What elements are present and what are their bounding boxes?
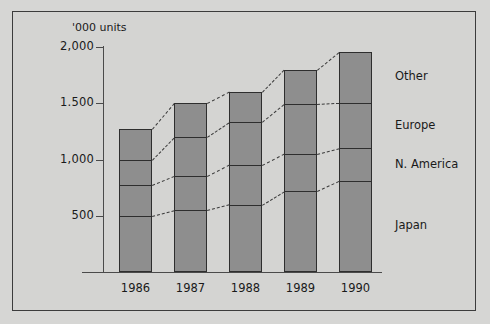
- stacked-bar: [284, 70, 317, 273]
- bar-segment-divider: [229, 205, 262, 206]
- y-tick-mark: [96, 47, 104, 48]
- bar-segment-divider: [119, 185, 152, 186]
- segment-connector-line: [317, 148, 339, 155]
- segment-connector-line: [317, 181, 339, 192]
- segment-connector-line: [152, 137, 175, 160]
- plot-area: '000 units 5001,0001.5002,000 1986198719…: [0, 0, 490, 324]
- legend-label: Europe: [395, 118, 435, 132]
- bar-segment-divider: [339, 181, 372, 182]
- y-tick-mark: [96, 216, 104, 217]
- y-tick-mark: [96, 160, 104, 161]
- segment-connector-line: [207, 165, 229, 177]
- stacked-bar: [174, 103, 207, 272]
- x-axis-label: 1988: [216, 281, 276, 295]
- x-axis-label: 1986: [106, 281, 166, 295]
- y-tick-label: 1.500: [60, 95, 94, 109]
- segment-connector-line: [262, 154, 284, 166]
- segment-connector-line: [262, 104, 285, 123]
- x-axis-label: 1987: [161, 281, 221, 295]
- legend-label: Other: [395, 69, 428, 83]
- y-tick-label: 2,000: [60, 39, 94, 53]
- segment-connector-line: [152, 176, 174, 186]
- bar-segment-divider: [284, 104, 317, 105]
- legend-label: Japan: [395, 218, 427, 232]
- segment-connector-line: [207, 205, 229, 212]
- legend-label: N. America: [395, 157, 458, 171]
- y-axis-units-label: '000 units: [72, 21, 127, 34]
- bar-segment-divider: [119, 216, 152, 217]
- segment-connector-line: [262, 191, 285, 205]
- chart-figure: '000 units 5001,0001.5002,000 1986198719…: [0, 0, 490, 324]
- bar-segment-divider: [284, 154, 317, 155]
- segment-connector-line: [317, 103, 339, 105]
- segment-connector-line: [152, 103, 175, 130]
- bar-segment-divider: [174, 210, 207, 211]
- bar-segment-divider: [174, 137, 207, 138]
- segment-connector-line: [262, 70, 285, 93]
- x-axis-line: [82, 272, 382, 273]
- x-axis-label: 1989: [271, 281, 331, 295]
- bar-segment-divider: [119, 160, 152, 161]
- y-tick-mark: [96, 103, 104, 104]
- segment-connector-line: [207, 92, 229, 104]
- x-axis-label: 1990: [326, 281, 386, 295]
- bar-segment-divider: [284, 191, 317, 192]
- bar-segment-divider: [229, 165, 262, 166]
- segment-connector-line: [152, 210, 174, 217]
- bar-segment-divider: [229, 122, 262, 123]
- y-tick-label: 1,000: [60, 152, 94, 166]
- bar-segment-divider: [174, 176, 207, 177]
- y-tick-label: 500: [71, 208, 94, 222]
- stacked-bar: [229, 92, 262, 272]
- bar-segment-divider: [339, 148, 372, 149]
- segment-connector-line: [317, 52, 340, 71]
- segment-connector-line: [207, 122, 230, 137]
- stacked-bar: [339, 52, 372, 273]
- bar-segment-divider: [339, 103, 372, 104]
- stacked-bar: [119, 129, 152, 272]
